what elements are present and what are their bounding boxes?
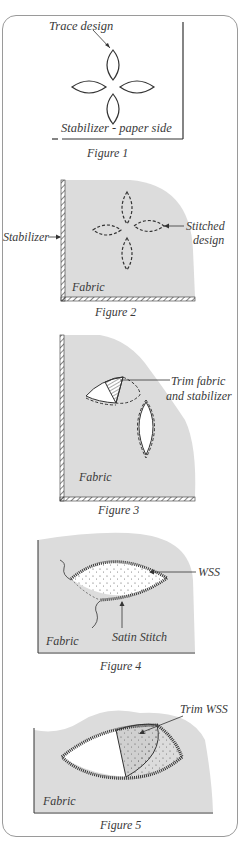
label-wss: WSS (198, 565, 220, 579)
figure-4-caption: Figure 4 (99, 659, 141, 673)
label-fabric: Fabric (78, 470, 112, 484)
label-stitched: Stitched (186, 219, 226, 233)
label-stabilizer: Stabilizer (3, 230, 49, 244)
figure-3: Trim fabric and stabilizer Fabric Figure… (60, 335, 232, 517)
figure-5: Trim WSS Fabric Figure 5 (34, 702, 228, 832)
stabilizer-hatch-bottom (60, 497, 195, 501)
stabilizer-hatch-left (60, 335, 64, 501)
instruction-diagrams: Trace design Stabilizer - paper side Fig… (0, 0, 251, 843)
label-and-stabilizer: and stabilizer (166, 389, 232, 403)
stabilizer-hatch-bottom (61, 297, 195, 301)
figure-1-caption: Figure 1 (86, 146, 128, 160)
figure-2: Stabilizer Stitched design Fabric Figure… (3, 180, 226, 319)
stabilizer-hatch-left (61, 180, 65, 301)
figure-2-caption: Figure 2 (94, 305, 136, 319)
figure-5-caption: Figure 5 (99, 818, 141, 832)
label-trim-fabric: Trim fabric (171, 374, 226, 388)
figure-1: Trace design Stabilizer - paper side Fig… (49, 19, 183, 160)
label-fabric: Fabric (45, 634, 79, 648)
figure-4: WSS Satin Stitch Fabric Figure 4 (38, 533, 220, 673)
label-design: design (193, 233, 224, 247)
traced-petals (72, 50, 154, 124)
label-trim-wss: Trim WSS (180, 702, 228, 716)
label-fabric: Fabric (71, 280, 105, 294)
label-trace-design: Trace design (49, 19, 113, 33)
arrow-icon (56, 235, 61, 240)
label-stabilizer-paper-side: Stabilizer - paper side (61, 121, 172, 135)
label-fabric: Fabric (42, 794, 76, 808)
label-satin-stitch: Satin Stitch (112, 630, 167, 644)
figure-3-caption: Figure 3 (97, 503, 139, 517)
